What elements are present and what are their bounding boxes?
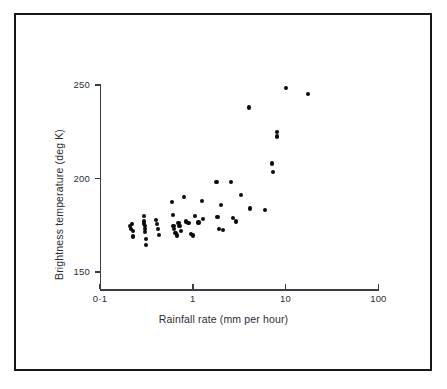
x-axis-title: Rainfall rate (mm per hour) — [0, 313, 447, 325]
figure-container: 150200250 0·1110100 Rainfall rate (mm pe… — [0, 0, 447, 389]
y-axis-title: Brightness temperature (deg K) — [53, 129, 65, 280]
